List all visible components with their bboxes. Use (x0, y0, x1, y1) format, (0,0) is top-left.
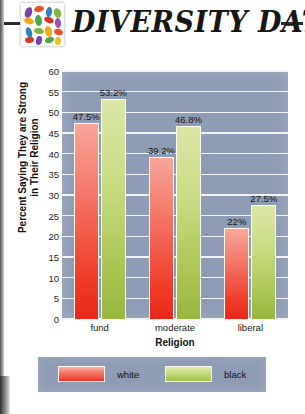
x-tick-label-fund: fund (90, 322, 109, 333)
y-axis-tick-labels: 051015202530354045505560 (38, 71, 59, 319)
bar-value-label: 27.5% (250, 193, 277, 204)
y-tick-label: 20 (38, 231, 59, 242)
y-tick-label: 0 (38, 314, 59, 325)
legend-item-black: black (165, 366, 246, 382)
legend-item-white: white (58, 366, 139, 382)
y-tick-label: 30 (38, 190, 59, 201)
bar-chart: Percent Saying They are Strong in Their … (0, 52, 305, 352)
bar-value-label: 47.5% (73, 111, 100, 122)
x-tick-label-moderate: moderate (155, 322, 195, 333)
chart-legend: white black (38, 357, 266, 392)
bar-value-label: 46.8% (175, 114, 202, 125)
bar-value-label: 53.2% (100, 87, 127, 98)
y-tick-label: 50 (38, 107, 59, 118)
bar-moderate-white: 39.2% (149, 157, 174, 319)
bar-moderate-black: 46.8% (176, 126, 201, 319)
header-rule-left-icon (4, 22, 20, 25)
y-tick-label: 10 (38, 272, 59, 283)
y-tick-label: 45 (38, 128, 59, 139)
bar-value-label: 39.2% (148, 145, 175, 156)
plot-area: 47.5%53.2%39.2%46.8%22%27.5% (62, 71, 288, 319)
y-tick-label: 25 (38, 210, 59, 221)
bar-liberal-white: 22% (224, 228, 249, 319)
bar-fund-white: 47.5% (74, 123, 99, 319)
y-tick-label: 55 (38, 86, 59, 97)
legend-swatch-white (58, 366, 105, 382)
bar-liberal-black: 27.5% (251, 205, 276, 319)
bar-value-label: 22% (227, 216, 246, 227)
legend-swatch-black (165, 366, 212, 382)
x-axis-tick-labels: fundmoderateliberal (62, 322, 288, 336)
y-tick-label: 40 (38, 148, 59, 159)
y-axis-title: Percent Saying They are Strong in Their … (17, 38, 40, 278)
y-tick-label: 5 (38, 293, 59, 304)
page-header: DIVERSITY DATA (0, 0, 305, 52)
page-binding-edge-lower (0, 376, 10, 414)
y-tick-label: 15 (38, 252, 59, 263)
bar-series-container: 47.5%53.2%39.2%46.8%22%27.5% (62, 71, 288, 319)
y-tick-label: 60 (38, 66, 59, 77)
legend-label-black: black (224, 369, 246, 380)
y-axis-title-line1: Percent Saying They are Strong (17, 38, 29, 278)
y-tick-label: 35 (38, 169, 59, 180)
x-tick-label-liberal: liberal (238, 322, 263, 333)
x-axis-title: Religion (62, 337, 288, 348)
bar-fund-black: 53.2% (101, 99, 126, 319)
legend-label-white: white (117, 369, 139, 380)
page-title: DIVERSITY DATA (72, 4, 277, 39)
